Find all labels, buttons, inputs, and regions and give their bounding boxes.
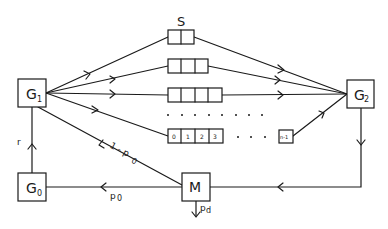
node-g0: G 0	[18, 173, 46, 201]
queueing-network-diagram: G 1 G 2 G 0 M S	[0, 0, 388, 229]
node-g1-label: G	[26, 86, 37, 102]
edge-m-to-g0	[46, 183, 182, 191]
edge-queue-3-g2	[222, 94, 347, 95]
cell-label: 0	[172, 133, 176, 140]
edge-label-p0: p	[110, 191, 116, 201]
queue-row-1	[168, 30, 194, 44]
queue-ellipsis-rows	[167, 114, 263, 116]
edge-m-departure	[192, 201, 200, 217]
edge-label-1-p0: 1 - p 0	[107, 140, 141, 166]
node-g2: G 2	[347, 80, 374, 108]
edge-g1-queue-4	[46, 93, 168, 136]
edge-g1-queue-2	[46, 66, 168, 93]
arrow-head-icon	[99, 140, 104, 148]
queue-row-3	[168, 88, 222, 102]
edge-queue-4-g2	[293, 94, 347, 136]
edge-g1-queue-3	[46, 93, 168, 95]
queue-row-2	[168, 59, 208, 73]
edge-queue-1-g2	[194, 37, 347, 94]
cell-label: 2	[200, 133, 204, 140]
cell-label: 3	[213, 133, 217, 140]
node-g1: G 1	[18, 79, 46, 107]
node-m-label: M	[189, 179, 201, 195]
edge-g1-queue-1	[46, 37, 168, 93]
node-m: M	[182, 173, 210, 201]
node-g2-sub: 2	[364, 95, 369, 104]
node-g0-label: G	[26, 180, 37, 196]
node-g0-sub: 0	[37, 189, 42, 198]
edge-label-r: r	[17, 137, 21, 147]
edges-queues-to-g2	[194, 37, 347, 136]
node-g1-sub: 1	[37, 95, 42, 104]
queues-label: S	[177, 14, 185, 29]
edge-label-p0-sub: 0	[117, 194, 122, 203]
cell-label-last: n-1	[280, 134, 288, 140]
edge-g2-to-m	[210, 108, 365, 191]
cell-label: 1	[186, 133, 190, 140]
arrow-head-icon	[110, 76, 115, 83]
queue-row-4: 0 1 2 3 n-1	[168, 129, 293, 143]
edge-queue-2-g2	[208, 66, 347, 94]
edge-label-pd-sub: d	[206, 206, 211, 215]
edge-g0-to-g1	[28, 107, 36, 173]
